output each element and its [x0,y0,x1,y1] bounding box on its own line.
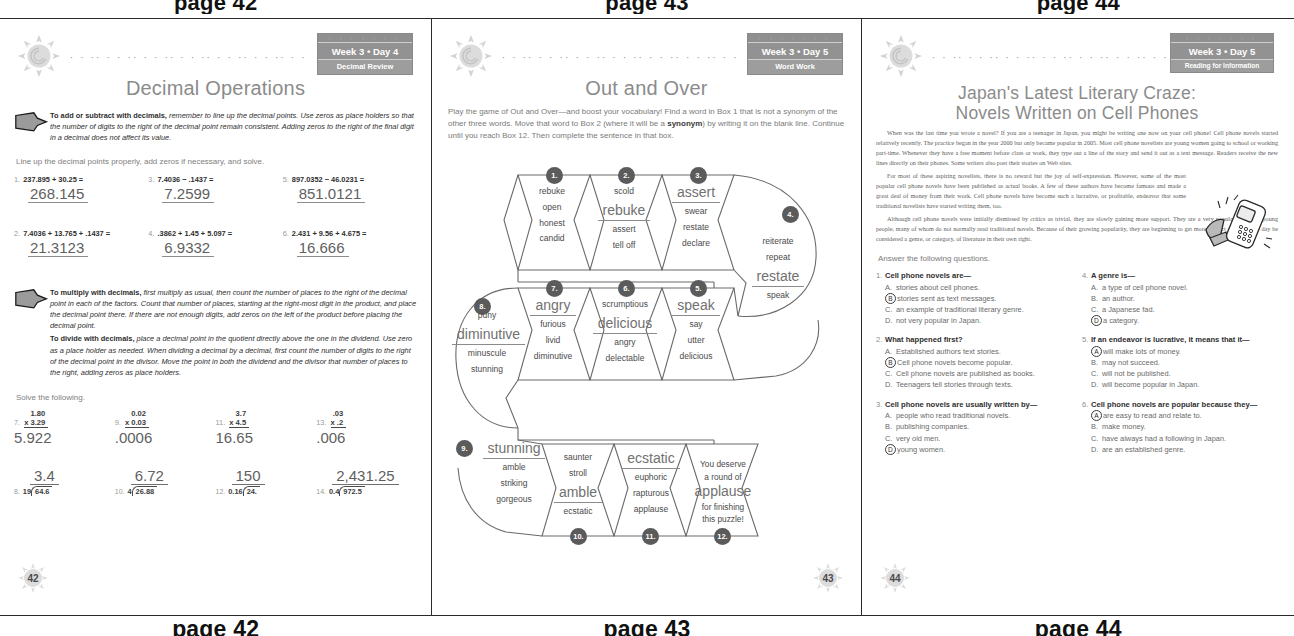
box4-answer[interactable]: restate [752,267,805,287]
bottom-caption-42: page 42 [0,618,431,636]
question-5-option-d[interactable]: D.will become popular in Japan. [1091,379,1278,390]
question-6-number: 6. [1082,400,1091,411]
box9-word-3: gorgeous [476,492,552,508]
dotted-divider: · · ·· · · ·· · · ·· · · ·· · · ·· · · ·… [932,53,1168,67]
box3-word-2: restate [664,220,728,236]
div-8-dividend: 64.6 [31,486,52,496]
problem-1-answer[interactable]: 268.145 [28,185,88,203]
div-10-quotient[interactable]: 6.72 [131,468,168,486]
question-6-option-c[interactable]: C.have always had a following in Japan. [1091,433,1278,444]
worksheet-spread: page 42 page 43 page 44 · · ·· · · [0,0,1294,636]
question-4-option-d[interactable]: Da category. [1091,315,1278,326]
mul-7-top: 1.80 [24,409,48,418]
worksheet-page-44: · · ·· · · ·· · · ·· · · ·· · · ·· · · ·… [862,19,1292,615]
question-1-option-d[interactable]: D.not very popular in Japan. [885,315,1072,326]
question-3-option-a[interactable]: A.people who read traditional novels. [885,410,1072,421]
mul-11-top: 3.7 [229,409,249,418]
out-and-over-puzzle: 1. 2. 3. 4. 5. 6. 7. 8. 9. 10. 11. 12. r… [446,148,850,543]
box7-answer[interactable]: angry [530,296,575,316]
problem-2-expression: 7.4036 + 13.765 + .1437 = [23,229,110,238]
mul-13-answer[interactable]: .006 [316,429,417,446]
question-3-option-d[interactable]: Dyoung women. [885,444,1072,455]
div-12-quotient[interactable]: 150 [232,468,265,486]
div-8-quotient[interactable]: 3.4 [30,468,59,486]
question-5-option-c[interactable]: C.will not be published. [1091,368,1278,379]
question-2-stem: What happened first? [885,335,963,346]
puzzle-box-11: ecstatic euphoric rapturous applause [618,448,684,517]
question-5-option-b[interactable]: B.may not succeed. [1091,357,1278,368]
box2-word-3: tell off [592,238,656,254]
question-5: 5.If an endeavor is lucrative, it means … [1082,335,1278,390]
question-4-option-a[interactable]: A.a type of cell phone novel. [1091,282,1278,293]
box6-word-2: angry [590,335,660,351]
box10-answer[interactable]: amble [554,483,602,503]
worksheet-page-42: · · ·· · · ·· · · ·· · · ·· · · ·· · · ·… [0,19,432,615]
question-3-option-b[interactable]: B.publishing companies. [885,421,1072,432]
questions-column-right: 4.A genre is— A.a type of cell phone nov… [1082,271,1278,464]
puzzle-box-2: scold rebuke assert tell off [592,184,656,253]
box12-answer[interactable]: applause [690,483,756,501]
divide-item-12: 150 12.0.1624. [216,468,317,497]
box9-word-1: amble [476,460,552,476]
page44-title-line-1: Japan's Latest Literary Craze: [876,83,1278,103]
page44-header: · · ·· · · ·· · · ·· · · ·· · · ·· · · ·… [876,31,1278,81]
box2-word-1: scold [592,184,656,200]
question-1-option-c[interactable]: C.an example of traditional literary gen… [885,304,1072,315]
question-6-option-d[interactable]: D.are an established genre. [1091,444,1278,455]
box11-word-1: euphoric [618,470,684,486]
box1-word-2: open [520,200,584,216]
question-1-option-b[interactable]: Bstories sent as text messages. [885,293,1072,304]
problem-2-answer[interactable]: 21.3123 [28,239,88,257]
option-letter: A. [885,410,896,421]
question-4-stem: A genre is— [1091,271,1135,282]
box6-answer[interactable]: delicious [593,314,657,334]
problem-5-answer[interactable]: 851.0121 [297,185,366,203]
box8-answer[interactable]: diminutive [452,325,525,345]
box2-answer[interactable]: rebuke [598,201,651,221]
option-letter: A [1091,346,1102,357]
question-2-option-d[interactable]: D.Teenagers tell stories through texts. [885,379,1072,390]
problem-4-answer[interactable]: 6.9332 [162,239,214,257]
problem-3-answer[interactable]: 7.2599 [162,185,214,203]
question-6-option-a[interactable]: Aare easy to read and relate to. [1091,410,1278,421]
question-5-option-a[interactable]: Awill make lots of money. [1091,346,1278,357]
page-number-42-label: 42 [27,573,38,584]
bottom-caption-44: page 44 [863,618,1294,636]
mul-7-answer[interactable]: 5.922 [14,429,115,446]
question-2-option-a[interactable]: A.Established authors text stories. [885,346,1072,357]
question-4-option-b[interactable]: B.an author. [1091,293,1278,304]
article-body: When was the last time you wrote a novel… [876,128,1278,245]
box3-answer[interactable]: assert [672,183,720,203]
problem-6-answer[interactable]: 16.666 [297,239,349,257]
mul-11-answer[interactable]: 16.65 [216,429,317,446]
puzzle-box-8: puny diminutive minuscule stunning [452,308,522,377]
box5-answer[interactable]: speak [672,296,719,316]
question-3-option-c[interactable]: C.very old men. [885,433,1072,444]
addsub-col-2: 3.7.4036 − .1437 = 7.2599 4..3862 + 1.45… [148,175,282,262]
question-6-option-b[interactable]: B.make money. [1091,421,1278,432]
div-12-dividend: 24. [243,486,260,496]
article-paragraph-1: When was the last time you wrote a novel… [876,128,1278,168]
multiply-item-9: 9. 0.02 x 0.03 .0006 [115,409,216,446]
question-2-option-c[interactable]: C.Cell phone novels are published as boo… [885,368,1072,379]
week-day-badge: · · · · · · · Week 3 • Day 5 Word Work [747,33,843,75]
box11-word-2: rapturous [618,486,684,502]
badge-subject: Word Work [748,60,842,74]
week-day-badge: · · · · · · · Week 3 • Day 5 Reading for… [1170,33,1274,73]
box9-answer[interactable]: stunning [483,439,546,459]
box11-answer[interactable]: ecstatic [622,449,679,469]
box10-word-1: saunter [546,450,610,466]
option-letter: A. [1091,282,1102,293]
box4-word-1: reiterate [742,234,814,250]
questions-columns: 1.Cell phone novels are— A.stories about… [876,271,1278,464]
badge-holes: · · · · · · · [1171,34,1273,42]
question-4-option-c[interactable]: C.a Japanese fad. [1091,304,1278,315]
div-14-quotient[interactable]: 2,431.25 [332,468,398,486]
option-text: will make lots of money. [1103,346,1181,357]
question-1-option-a[interactable]: A.stories about cell phones. [885,282,1072,293]
question-2-number: 2. [876,335,885,346]
multiply-item-7: 7. 1.80 x 3.29 5.922 [14,409,115,446]
question-2-option-b[interactable]: BCell phone novels become popular. [885,357,1072,368]
mul-9-answer[interactable]: .0006 [115,429,216,446]
tip1-lead: To add or subtract with decimals, [50,111,167,120]
